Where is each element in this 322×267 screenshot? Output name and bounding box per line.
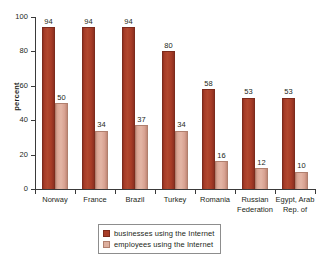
bar-norway-series0	[42, 27, 55, 189]
y-tick-label: 40	[2, 116, 28, 124]
bar-value-label: 34	[170, 121, 193, 129]
bar-value-label: 80	[157, 42, 180, 50]
bar-chart: percent 020406080100 9450943494378034581…	[0, 0, 322, 267]
bar-value-label: 10	[290, 162, 313, 170]
bar-egyptarabrepof-series1	[295, 172, 308, 189]
y-tick-label: 100	[2, 13, 28, 21]
plot-area: 9450943494378034581653125310	[35, 17, 315, 189]
x-axis-line	[35, 189, 316, 190]
bar-egyptarabrepof-series0	[282, 98, 295, 189]
legend-item[interactable]: employees using the Internet	[103, 239, 214, 250]
x-tick-mark	[275, 190, 276, 194]
bar-value-label: 34	[90, 121, 113, 129]
x-tick-mark	[75, 190, 76, 194]
y-tick-label: 60	[2, 82, 28, 90]
bar-value-label: 94	[117, 18, 140, 26]
x-tick-mark	[195, 190, 196, 194]
y-tick-label: 20	[2, 151, 28, 159]
legend-swatch-icon	[103, 241, 110, 248]
legend-label: businesses using the Internet	[114, 229, 214, 238]
x-tick-mark	[115, 190, 116, 194]
x-tick-mark	[35, 190, 36, 194]
bar-value-label: 16	[210, 152, 233, 160]
bar-romania-series0	[202, 89, 215, 189]
bar-value-label: 12	[250, 159, 273, 167]
bar-value-label: 53	[277, 88, 300, 96]
bar-turkey-series1	[175, 131, 188, 189]
bar-romania-series1	[215, 161, 228, 189]
bar-value-label: 58	[197, 80, 220, 88]
bar-brazil-series1	[135, 125, 148, 189]
legend-item[interactable]: businesses using the Internet	[103, 228, 214, 239]
x-tick-mark	[315, 190, 316, 194]
bar-brazil-series0	[122, 27, 135, 189]
bar-value-label: 50	[50, 94, 73, 102]
legend-label: employees using the Internet	[114, 240, 213, 249]
bar-france-series0	[82, 27, 95, 189]
bar-value-label: 53	[237, 88, 260, 96]
bar-russianfederation-series0	[242, 98, 255, 189]
bar-norway-series1	[55, 103, 68, 189]
bar-value-label: 94	[37, 18, 60, 26]
chart-legend: businesses using the Internetemployees u…	[98, 224, 221, 254]
x-tick-mark	[155, 190, 156, 194]
bar-france-series1	[95, 131, 108, 189]
bar-value-label: 94	[77, 18, 100, 26]
bar-russianfederation-series1	[255, 168, 268, 189]
x-category-label: Egypt, Arab Rep. of	[269, 195, 321, 214]
y-tick-label: 0	[2, 185, 28, 193]
legend-swatch-icon	[103, 230, 110, 237]
y-tick-label: 80	[2, 47, 28, 55]
bar-value-label: 37	[130, 116, 153, 124]
x-tick-mark	[235, 190, 236, 194]
